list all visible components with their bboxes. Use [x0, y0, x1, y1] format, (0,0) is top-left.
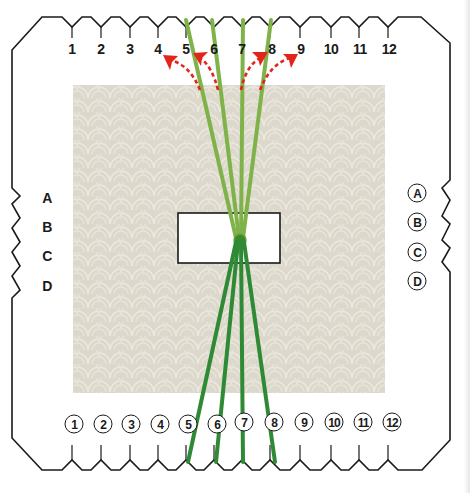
top-label-1: 1	[68, 42, 75, 56]
top-label-7: 7	[238, 42, 245, 56]
bottom-label-10: 10	[325, 413, 344, 432]
right-label-a: A	[408, 184, 427, 203]
left-label-b: B	[42, 220, 52, 234]
bottom-label-1: 1	[65, 415, 84, 434]
bottom-label-12: 12	[383, 413, 402, 432]
loom-diagram: 1 2 3 4 5 6 7 8 9 10 11 12 A B C D A B C…	[0, 0, 470, 493]
right-label-d: D	[408, 272, 427, 291]
top-label-9: 9	[297, 42, 304, 56]
page-edge	[464, 0, 470, 493]
left-label-d: D	[42, 279, 52, 293]
center-card	[178, 213, 280, 263]
bottom-label-11: 11	[354, 413, 373, 432]
bottom-label-8: 8	[265, 413, 284, 432]
top-label-5: 5	[182, 42, 189, 56]
top-label-12: 12	[382, 42, 397, 56]
top-label-2: 2	[97, 42, 104, 56]
top-label-8: 8	[268, 42, 275, 56]
top-label-11: 11	[353, 42, 367, 56]
bottom-label-2: 2	[94, 415, 113, 434]
right-label-c: C	[408, 243, 427, 262]
bottom-label-7: 7	[235, 413, 254, 432]
left-label-a: A	[42, 191, 52, 205]
top-label-6: 6	[210, 42, 217, 56]
left-label-c: C	[42, 249, 52, 263]
bottom-label-4: 4	[151, 415, 170, 434]
bottom-label-9: 9	[295, 413, 314, 432]
top-label-3: 3	[126, 42, 133, 56]
bottom-label-6: 6	[208, 415, 227, 434]
right-label-b: B	[408, 213, 427, 232]
bottom-label-5: 5	[179, 415, 198, 434]
top-label-10: 10	[324, 42, 339, 56]
bottom-label-3: 3	[122, 415, 141, 434]
top-label-4: 4	[154, 42, 161, 56]
